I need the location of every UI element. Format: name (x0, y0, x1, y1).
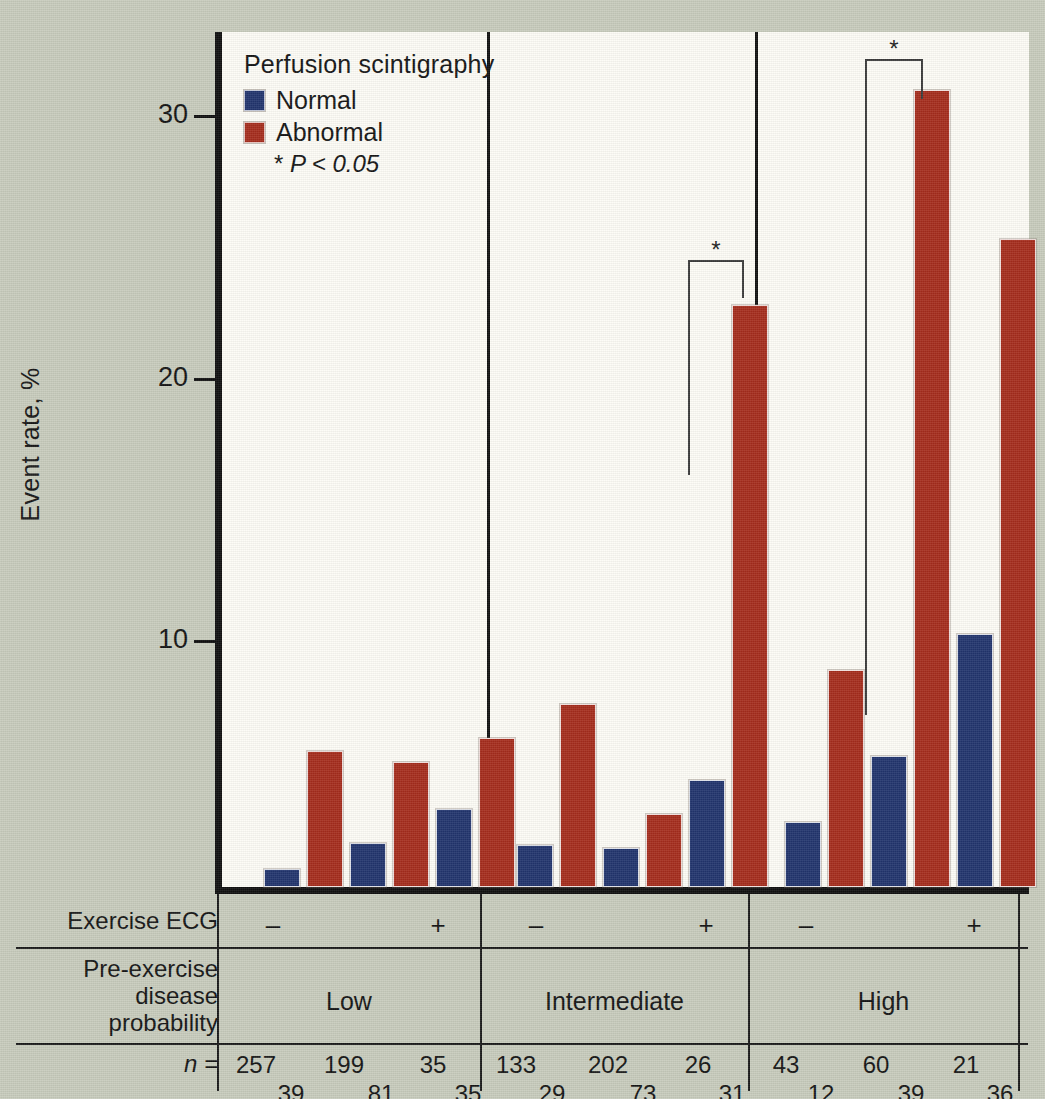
n-top-8: 60 (846, 1051, 906, 1079)
y-tick-label-30: 30 (128, 99, 188, 130)
bracket-star: * (865, 37, 923, 61)
ecg-sign-high-plus: + (954, 910, 994, 941)
table-vline-left (217, 894, 219, 1043)
y-tick-mark-30 (194, 115, 216, 118)
table-rule-2 (16, 1043, 1028, 1045)
n-top-1: 257 (226, 1051, 286, 1079)
y-tick-label-20: 20 (128, 362, 188, 393)
figure-page: 30 20 10 Event rate, % Perfusion scintig… (0, 0, 1045, 1099)
ecg-sign-int-minus: – (516, 910, 556, 941)
bar-high-2-normal (871, 756, 907, 887)
bar-high-1-abnormal (828, 670, 864, 887)
n-bottom-9: 36 (970, 1080, 1030, 1099)
bar-intermediate-2-abnormal (646, 814, 682, 887)
bar-intermediate-3-normal (689, 780, 725, 887)
bar-intermediate-1-abnormal (560, 704, 596, 887)
n-bottom-7: 12 (791, 1080, 851, 1099)
table-vline-right (1018, 894, 1020, 1091)
y-tick-mark-10 (194, 640, 216, 643)
annotation-table: Exercise ECG Pre-exercise disease probab… (8, 894, 1030, 1089)
ecg-sign-high-minus: – (786, 910, 826, 941)
n-bottom-5: 73 (613, 1080, 673, 1099)
legend-swatch-abnormal-icon (244, 122, 265, 143)
row-label-line1: Pre-exercise (0, 956, 218, 983)
group-name-high: High (749, 987, 1018, 1016)
bar-low-1-abnormal (307, 751, 343, 887)
chart-legend: Perfusion scintigraphy Normal Abnormal *… (244, 50, 494, 178)
n-bottom-1: 39 (261, 1080, 321, 1099)
bar-low-2-abnormal (393, 762, 429, 887)
legend-label-normal: Normal (276, 86, 357, 115)
bar-low-3-normal (436, 809, 472, 887)
bar-high-2-abnormal (914, 90, 950, 887)
row-label-line3: probability (0, 1010, 218, 1037)
legend-note-star: * (274, 150, 283, 177)
bar-intermediate-3-abnormal (732, 305, 768, 888)
bracket-right-line (921, 59, 923, 99)
table-vline-left-lower (217, 1045, 219, 1091)
y-axis-title: Event rate, % (16, 295, 45, 595)
n-top-5: 202 (578, 1051, 638, 1079)
significance-bracket-intermediate: * (688, 260, 744, 320)
y-tick-label-10: 10 (128, 624, 188, 655)
bracket-left-line (865, 59, 867, 715)
row-label-n: n = (0, 1051, 218, 1078)
row-label-pre-exercise: Pre-exercise disease probability (0, 956, 218, 1037)
legend-title: Perfusion scintigraphy (244, 50, 494, 79)
bar-high-3-normal (957, 634, 993, 887)
ecg-sign-low-plus: + (418, 910, 458, 941)
chart-inner: Perfusion scintigraphy Normal Abnormal *… (222, 32, 1029, 887)
bar-intermediate-1-normal (517, 845, 553, 887)
bar-high-3-abnormal (1000, 239, 1036, 887)
legend-label-abnormal: Abnormal (276, 118, 383, 147)
bar-low-2-normal (350, 843, 386, 887)
n-top-2: 199 (314, 1051, 374, 1079)
ecg-sign-int-plus: + (686, 910, 726, 941)
legend-swatch-normal-icon (244, 90, 265, 111)
bracket-right-line (742, 260, 744, 298)
bracket-left-line (688, 260, 690, 475)
table-rule-1 (16, 947, 1028, 949)
n-bottom-6: 31 (702, 1080, 762, 1099)
bar-low-1-normal (264, 869, 300, 887)
legend-significance-note: * P < 0.05 (274, 150, 494, 178)
bar-intermediate-2-normal (603, 848, 639, 887)
group-name-intermediate: Intermediate (481, 987, 748, 1016)
n-bottom-2: 81 (351, 1080, 411, 1099)
legend-note-text: P < 0.05 (290, 150, 379, 177)
n-bottom-3: 35 (438, 1080, 498, 1099)
n-bottom-4: 29 (522, 1080, 582, 1099)
bar-low-3-abnormal (479, 738, 515, 887)
n-top-6: 26 (668, 1051, 728, 1079)
n-bottom-8: 39 (881, 1080, 941, 1099)
chart-plot-area: Perfusion scintigraphy Normal Abnormal *… (215, 32, 1029, 894)
row-label-n-text: n = (184, 1050, 218, 1077)
y-tick-mark-20 (194, 378, 216, 381)
n-top-7: 43 (756, 1051, 816, 1079)
n-top-4: 133 (486, 1051, 546, 1079)
bar-high-1-normal (785, 822, 821, 887)
n-top-3: 35 (403, 1051, 463, 1079)
group-name-low: Low (218, 987, 480, 1016)
bracket-star: * (688, 238, 744, 262)
legend-item-normal: Normal (244, 86, 494, 115)
row-label-line2: disease (0, 983, 218, 1010)
ecg-sign-low-minus: – (253, 910, 293, 941)
legend-item-abnormal: Abnormal (244, 118, 494, 147)
n-top-9: 21 (936, 1051, 996, 1079)
row-label-exercise-ecg: Exercise ECG (0, 908, 218, 935)
significance-bracket-high: * (865, 59, 923, 119)
